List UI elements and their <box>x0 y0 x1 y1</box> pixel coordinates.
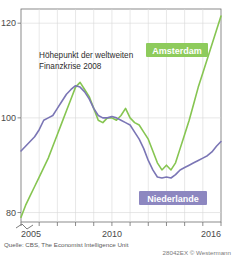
y-tick-label: 100 <box>1 113 16 123</box>
x-tick-label: 2005 <box>21 229 41 239</box>
house-price-index-chart: 80100120 200520102016 Höhepunkt der welt… <box>0 0 235 261</box>
legend-amsterdam[interactable]: Amsterdam <box>146 43 208 57</box>
annotation-line-1: Höhepunkt der weltweiten <box>39 51 134 60</box>
legend-niederlande[interactable]: Niederlande <box>139 191 207 205</box>
x-tick-label: 2016 <box>201 229 221 239</box>
y-tick-label: 120 <box>1 18 16 28</box>
x-tick-label: 2010 <box>102 229 122 239</box>
legend-amsterdam-label: Amsterdam <box>152 46 202 56</box>
y-tick-label: 80 <box>6 208 16 218</box>
annotation-line-2: Finanzkrise 2008 <box>39 62 102 71</box>
source-note: Quelle: CBS, The Economist Intelligence … <box>4 241 129 248</box>
copyright-note: 28042EX © Westermann <box>163 249 232 256</box>
legend-niederlande-label: Niederlande <box>147 194 199 204</box>
